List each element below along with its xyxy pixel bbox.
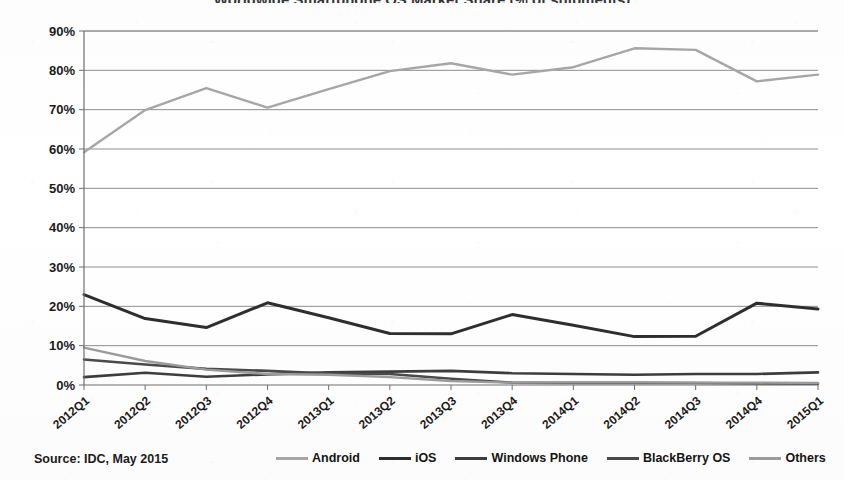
y-axis-tick-label: 20% [49, 299, 75, 314]
legend-label-others: Others [785, 451, 825, 465]
legend-label-ios: iOS [415, 451, 437, 465]
chart-plot-area: 0%10%20%30%40%50%60%70%80%90% 2012Q12012… [0, 0, 844, 480]
legend-label-blackberry-os: BlackBerry OS [643, 451, 731, 465]
x-axis-tick-label: 2014Q3 [662, 393, 704, 431]
legend-label-android: Android [312, 451, 360, 465]
x-axis-tick-label: 2015Q1 [784, 393, 826, 431]
data-series-group [84, 48, 818, 384]
gridlines [84, 31, 818, 346]
legend-swatch-others [749, 457, 781, 460]
x-axis-tick-labels: 2012Q12012Q22012Q32012Q42013Q12013Q22013… [50, 385, 826, 432]
y-axis-tick-labels: 0%10%20%30%40%50%60%70%80%90% [49, 24, 84, 393]
series-line-windows-phone [84, 371, 818, 377]
legend-item-blackberry-os[interactable]: BlackBerry OS [607, 451, 731, 465]
x-axis-tick-label: 2014Q2 [601, 393, 643, 431]
x-axis-tick-label: 2012Q3 [173, 393, 215, 431]
legend-swatch-ios [379, 457, 411, 460]
legend-item-windows-phone[interactable]: Windows Phone [455, 451, 587, 465]
x-axis-tick-label: 2012Q2 [111, 393, 153, 431]
x-axis-tick-label: 2013Q4 [478, 393, 520, 431]
source-note: Source: IDC, May 2015 [34, 452, 168, 466]
x-axis-tick-label: 2014Q4 [723, 393, 765, 431]
legend-item-android[interactable]: Android [276, 451, 360, 465]
y-axis-tick-label: 80% [49, 63, 75, 78]
y-axis-tick-label: 30% [49, 260, 75, 275]
x-axis-tick-label: 2012Q4 [234, 393, 276, 431]
legend-item-ios[interactable]: iOS [379, 451, 437, 465]
legend-item-others[interactable]: Others [749, 451, 825, 465]
y-axis-tick-label: 50% [49, 181, 75, 196]
y-axis-tick-label: 10% [49, 338, 75, 353]
legend-swatch-android [276, 457, 308, 460]
legend-swatch-blackberry-os [607, 457, 639, 460]
y-axis-tick-label: 90% [49, 24, 75, 39]
chart-legend: Android iOS Windows Phone BlackBerry OS … [276, 451, 826, 465]
x-axis-tick-label: 2013Q3 [417, 393, 459, 431]
y-axis-tick-label: 60% [49, 142, 75, 157]
x-axis-tick-label: 2013Q1 [295, 393, 337, 431]
x-axis-tick-label: 2013Q2 [356, 393, 398, 431]
legend-label-windows-phone: Windows Phone [491, 451, 587, 465]
line-chart: 0%10%20%30%40%50%60%70%80%90% 2012Q12012… [0, 0, 844, 480]
x-axis-tick-label: 2014Q1 [540, 393, 582, 431]
y-axis-tick-label: 70% [49, 102, 75, 117]
series-line-android [84, 48, 818, 152]
y-axis-tick-label: 40% [49, 220, 75, 235]
legend-swatch-windows-phone [455, 457, 487, 460]
y-axis-tick-label: 0% [56, 378, 75, 393]
series-line-ios [84, 295, 818, 337]
x-axis-tick-label: 2012Q1 [50, 393, 92, 431]
